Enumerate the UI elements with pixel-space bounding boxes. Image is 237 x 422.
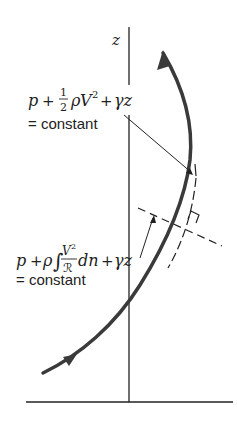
svg-text:p: p (16, 251, 26, 270)
svg-text:2: 2 (71, 242, 76, 251)
equation-bernoulli-normal: p + ρ ∫ V 2 ℛ dn + γz = constant (16, 242, 133, 288)
svg-text:2: 2 (60, 101, 67, 114)
equation-bernoulli-along-streamline: p + 1 2 ρ V 2 + γz = constant (28, 86, 133, 132)
leader-top (124, 115, 192, 173)
svg-text:+: + (100, 92, 113, 110)
dashed-tick (195, 164, 196, 176)
arrowhead-bottom-icon (63, 354, 77, 366)
svg-text:γz: γz (114, 251, 133, 270)
svg-text:= constant: = constant (16, 271, 86, 288)
svg-text:ρ: ρ (42, 251, 53, 270)
svg-text:dn: dn (78, 251, 99, 270)
z-axis-label: z (111, 31, 120, 49)
svg-text:+: + (101, 252, 114, 270)
svg-text:= constant: = constant (28, 115, 98, 132)
svg-text:+: + (30, 252, 43, 270)
svg-text:1: 1 (60, 86, 67, 99)
svg-text:+: + (42, 92, 55, 110)
svg-text:p: p (28, 91, 38, 110)
leader-bottom (140, 218, 153, 258)
svg-text:2: 2 (92, 89, 98, 100)
svg-text:γz: γz (114, 91, 133, 110)
streamline-diagram: z p + 1 2 ρ V 2 + γz = constant p + ρ ∫ … (0, 0, 237, 422)
